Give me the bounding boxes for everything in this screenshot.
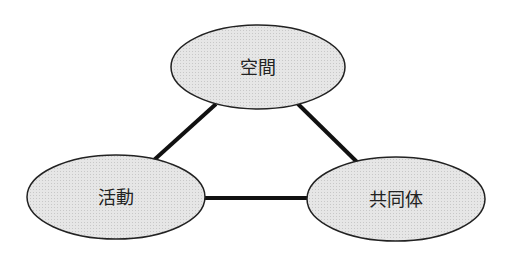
- relationship-diagram: 空間 活動 共同体: [0, 0, 512, 264]
- edge-space-community: [298, 104, 357, 162]
- node-label-community: 共同体: [369, 189, 423, 210]
- node-label-space: 空間: [240, 57, 276, 78]
- node-activity: 活動: [27, 155, 205, 239]
- node-space: 空間: [171, 25, 345, 109]
- node-label-activity: 活動: [98, 187, 134, 208]
- edge-space-activity: [154, 104, 216, 160]
- node-community: 共同体: [307, 157, 485, 241]
